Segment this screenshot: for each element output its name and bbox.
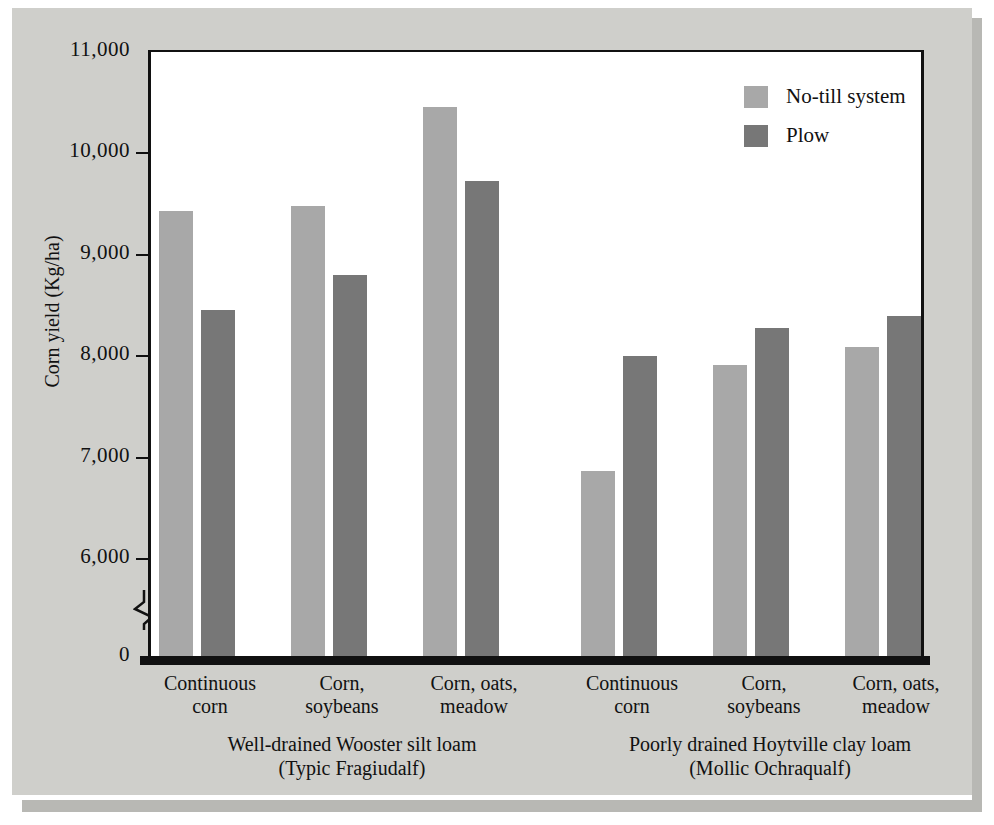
- bar-plow: [201, 310, 235, 656]
- bar-no-till: [845, 347, 879, 656]
- bar-plow: [623, 356, 657, 656]
- category-label-line1: Corn, oats,: [389, 672, 559, 695]
- bar-no-till: [581, 471, 615, 656]
- legend-label: Plow: [786, 123, 829, 148]
- y-tick-mark: [136, 355, 148, 357]
- y-tick-label-text: 11,000: [70, 37, 130, 62]
- bar-plow: [333, 275, 367, 656]
- y-tick-mark: [136, 254, 148, 256]
- bar-no-till: [159, 211, 193, 656]
- bar-plow: [465, 181, 499, 656]
- category-label-line2: meadow: [389, 695, 559, 718]
- group-label-line2: (Typic Fragiudalf): [142, 756, 562, 780]
- category-label-line2: meadow: [811, 695, 981, 718]
- bar-no-till: [423, 107, 457, 656]
- legend: No-till systemPlow: [744, 84, 954, 162]
- y-tick-mark: [136, 558, 148, 560]
- category-label: Corn, oats,meadow: [811, 672, 981, 718]
- y-tick-label-text: 8,000: [80, 341, 130, 366]
- group-label-line2: (Mollic Ochraqualf): [560, 756, 980, 780]
- y-axis-title: Corn yield (Kg/ha): [41, 162, 64, 462]
- category-label-line1: Corn, oats,: [811, 672, 981, 695]
- bar-no-till: [713, 365, 747, 656]
- legend-swatch: [744, 125, 768, 147]
- y-tick-label-text: 0: [119, 642, 130, 667]
- legend-swatch: [744, 86, 768, 108]
- category-label: Corn, oats,meadow: [389, 672, 559, 718]
- group-label: Well-drained Wooster silt loam(Typic Fra…: [142, 732, 562, 780]
- legend-item: Plow: [744, 123, 954, 148]
- plate-shadow-bottom: [22, 800, 982, 812]
- bar-plow: [755, 328, 789, 656]
- y-tick-label-text: 10,000: [69, 138, 130, 163]
- bar-no-till: [291, 206, 325, 656]
- y-tick-mark: [136, 152, 148, 154]
- legend-item: No-till system: [744, 84, 954, 109]
- y-tick-label-text: 6,000: [80, 544, 130, 569]
- group-label-line1: Well-drained Wooster silt loam: [142, 732, 562, 756]
- group-label-line1: Poorly drained Hoytville clay loam: [560, 732, 980, 756]
- bar-plow: [887, 316, 921, 656]
- y-tick-mark: [136, 457, 148, 459]
- y-tick-label-text: 7,000: [80, 443, 130, 468]
- chart-page: Corn yield (Kg/ha) 11,00010,0009,0008,00…: [0, 0, 994, 825]
- y-tick-label-text: 9,000: [80, 240, 130, 265]
- x-axis-baseline: [140, 656, 930, 665]
- legend-label: No-till system: [786, 84, 906, 109]
- group-label: Poorly drained Hoytville clay loam(Molli…: [560, 732, 980, 780]
